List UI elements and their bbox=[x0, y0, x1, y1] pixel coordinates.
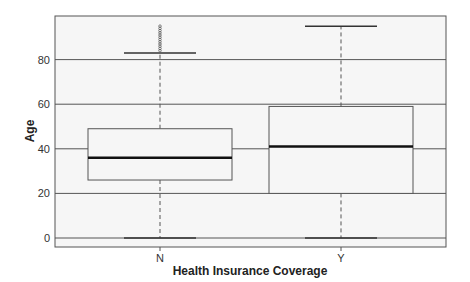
y-tick-label: 40 bbox=[38, 143, 50, 155]
y-tick-label: 20 bbox=[38, 187, 50, 199]
y-tick-label: 60 bbox=[38, 98, 50, 110]
x-tick-label: Y bbox=[337, 252, 345, 264]
y-axis-label: Age bbox=[23, 119, 37, 142]
y-axis-ticks: 020406080 bbox=[38, 54, 50, 244]
x-axis-ticks: NY bbox=[156, 247, 345, 264]
x-tick-label: N bbox=[156, 252, 164, 264]
y-tick-label: 0 bbox=[44, 232, 50, 244]
boxplot-chart: 020406080 NY Health Insurance Coverage A… bbox=[0, 0, 470, 282]
iqr-box bbox=[269, 106, 413, 193]
iqr-box bbox=[88, 129, 232, 180]
y-tick-label: 80 bbox=[38, 54, 50, 66]
x-axis-label: Health Insurance Coverage bbox=[173, 264, 328, 278]
